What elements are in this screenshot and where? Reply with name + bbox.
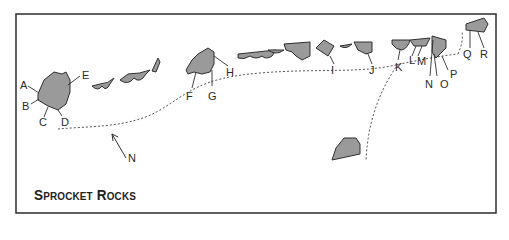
- route-label-n: N: [425, 78, 433, 90]
- route-label-q: Q: [463, 48, 472, 60]
- route-label-r: R: [480, 48, 488, 60]
- route-label-f: F: [186, 90, 193, 102]
- map-title: Sprocket Rocks: [34, 186, 136, 203]
- route-label-l: L: [409, 54, 415, 66]
- route-label-b: B: [22, 100, 29, 112]
- route-label-h: H: [226, 66, 234, 78]
- route-label-k: K: [395, 61, 403, 73]
- route-label-a: A: [20, 79, 28, 91]
- route-label-e: E: [82, 69, 89, 81]
- north-label: N: [128, 152, 136, 164]
- route-label-g: G: [208, 90, 217, 102]
- route-label-d: D: [61, 116, 69, 128]
- route-label-o: O: [440, 78, 449, 90]
- route-label-j: J: [369, 64, 375, 76]
- route-label-c: C: [39, 116, 47, 128]
- route-label-i: I: [331, 64, 334, 76]
- route-label-p: P: [450, 68, 457, 80]
- route-label-m: M: [417, 55, 426, 67]
